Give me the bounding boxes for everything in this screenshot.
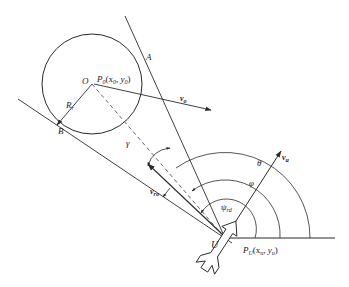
theta-angle-arc [176, 152, 310, 238]
relative-velocity-arrow [148, 164, 222, 234]
line-of-sight-dashed [92, 84, 225, 238]
svg-text:PU(xu, yu): PU(xu, yu) [242, 245, 278, 256]
label-u: U [211, 239, 219, 250]
radius-arrow [57, 84, 92, 125]
gamma-angle-arc [148, 148, 170, 166]
label-b: B [58, 126, 64, 136]
tangent-line-b [18, 99, 232, 243]
label-psi: ψrd [221, 202, 233, 213]
uav-icon [195, 215, 245, 276]
label-relative-velocity: vro [150, 187, 159, 197]
svg-text:vu: vu [282, 153, 290, 163]
label-phi: φ [249, 178, 254, 188]
label-uav-velocity: vu [282, 153, 290, 163]
collision-cone-diagram: A B O P0(x0, y0) Rr vo vro vu γ θ φ ψrd … [0, 0, 349, 287]
svg-text:vo: vo [180, 94, 187, 104]
label-gamma: γ [126, 138, 130, 148]
svg-text:ψrd: ψrd [221, 202, 233, 213]
svg-text:Rr: Rr [65, 100, 75, 111]
label-theta: θ [257, 158, 262, 168]
vro-tick-arrow [163, 188, 170, 197]
label-obstacle-position: P0(x0, y0) [96, 74, 131, 85]
label-o: O [82, 76, 89, 86]
svg-text:P0(x0, y0): P0(x0, y0) [96, 74, 131, 85]
label-radius: Rr [65, 100, 75, 111]
svg-text:vro: vro [150, 187, 159, 197]
label-a: A [145, 52, 152, 62]
label-uav-position: PU(xu, yu) [242, 245, 278, 256]
label-obstacle-velocity: vo [180, 94, 187, 104]
